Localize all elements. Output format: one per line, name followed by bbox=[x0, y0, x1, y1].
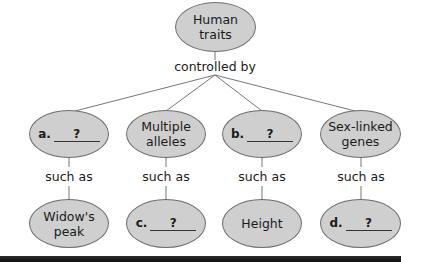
node-c-blank: c. ? bbox=[126, 199, 206, 248]
such-as-label: such as bbox=[337, 169, 384, 184]
blank-letter-d: d. bbox=[329, 216, 342, 231]
blank-a-answer: ? bbox=[54, 128, 100, 142]
node-label-line1: Height bbox=[241, 216, 282, 231]
blank-letter-a: a. bbox=[38, 127, 51, 142]
such-as-label: such as bbox=[238, 169, 285, 184]
blank-letter-c: c. bbox=[136, 216, 148, 231]
bottom-divider-bar bbox=[0, 256, 401, 262]
such-as-label: such as bbox=[142, 169, 189, 184]
node-label-line1: Widow's bbox=[43, 209, 94, 224]
node-d-blank: d. ? bbox=[320, 199, 401, 248]
node-sex-linked-genes: Sex-linked genes bbox=[320, 110, 401, 158]
node-label-line1: Multiple bbox=[141, 119, 191, 134]
node-b-blank: b. ? bbox=[222, 110, 302, 158]
controlled-by-label: controlled by bbox=[174, 59, 256, 74]
root-label-line1: Human bbox=[193, 12, 238, 27]
node-multiple-alleles: Multiple alleles bbox=[126, 110, 206, 158]
node-height: Height bbox=[222, 199, 302, 248]
node-label-line1: Sex-linked bbox=[328, 119, 393, 134]
node-label-line2: alleles bbox=[141, 134, 191, 149]
node-label-line2: genes bbox=[328, 134, 393, 149]
blank-letter-b: b. bbox=[231, 127, 244, 142]
such-as-label: such as bbox=[45, 169, 92, 184]
root-label-line2: traits bbox=[193, 27, 238, 42]
node-widows-peak: Widow's peak bbox=[29, 199, 109, 248]
blank-c-answer: ? bbox=[150, 217, 196, 231]
blank-b-answer: ? bbox=[247, 128, 293, 142]
node-label-line2: peak bbox=[43, 224, 94, 239]
node-a-blank: a. ? bbox=[29, 110, 109, 158]
blank-d-answer: ? bbox=[346, 217, 392, 231]
root-node-human-traits: Human traits bbox=[175, 2, 256, 52]
